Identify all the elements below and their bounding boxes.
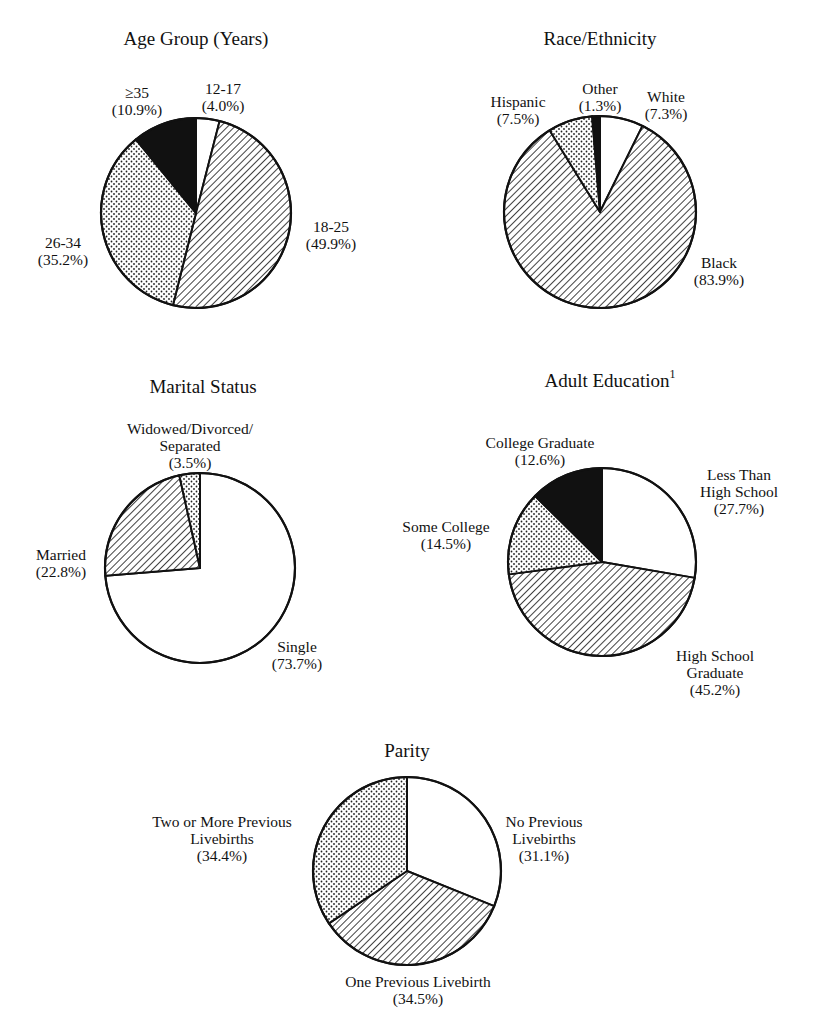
label-text: Livebirths [484,830,604,847]
label-value: (31.1%) [484,847,604,864]
label-value: (34.4%) [124,847,320,864]
label-text: One Previous Livebirth [316,973,520,990]
label-text: Livebirths [124,830,320,847]
label-value: (34.5%) [316,990,520,1007]
parity-label-no-previous: No Previous Livebirths (31.1%) [484,813,604,864]
label-text: No Previous [484,813,604,830]
parity-label-one-previous: One Previous Livebirth (34.5%) [316,973,520,1007]
label-text: Two or More Previous [124,813,320,830]
parity-label-two-or-more: Two or More Previous Livebirths (34.4%) [124,813,320,864]
parity-pie [0,0,825,1036]
